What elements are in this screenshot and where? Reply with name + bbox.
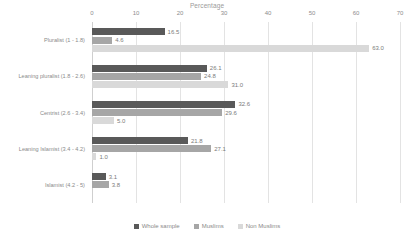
legend-swatch-icon xyxy=(194,224,199,229)
bar-value-label: 16.5 xyxy=(165,29,180,35)
bar[interactable] xyxy=(92,37,112,44)
bar[interactable] xyxy=(92,101,235,108)
bar[interactable] xyxy=(92,109,222,116)
x-tick-20: 20 xyxy=(177,10,184,16)
bar-value-label: 3.8 xyxy=(109,182,120,188)
category-label: Islamist (4.2 - 5) xyxy=(45,182,85,188)
category-label: Leaning pluralist (1.8 - 2.6) xyxy=(18,73,85,79)
legend-label: Whole sample xyxy=(142,223,180,229)
x-tick-40: 40 xyxy=(265,10,272,16)
legend-label: Non Muslims xyxy=(246,223,281,229)
chart-title: Percentage xyxy=(0,2,414,9)
bar-row: 24.8 xyxy=(92,73,400,80)
bar-row: 3.8 xyxy=(92,181,400,188)
bar[interactable] xyxy=(92,173,106,180)
bar-row: 27.1 xyxy=(92,145,400,152)
bar[interactable] xyxy=(92,137,188,144)
legend-swatch-icon xyxy=(134,224,139,229)
bar-row: 5.0 xyxy=(92,117,400,124)
x-tick-30: 30 xyxy=(221,10,228,16)
bar-value-label: 4.6 xyxy=(112,37,123,43)
bar[interactable] xyxy=(92,81,228,88)
bar[interactable] xyxy=(92,73,201,80)
bar-value-label: 21.8 xyxy=(188,138,203,144)
x-tick-10: 10 xyxy=(133,10,140,16)
bar-row: 32.6 xyxy=(92,101,400,108)
legend-item[interactable]: Non Muslims xyxy=(238,223,281,229)
bar-value-label: 24.8 xyxy=(201,73,216,79)
legend-swatch-icon xyxy=(238,224,243,229)
bar-value-label: 31.0 xyxy=(228,82,243,88)
x-tick-70: 70 xyxy=(397,10,404,16)
bar-row: 3.1 xyxy=(92,173,400,180)
x-tick-0: 0 xyxy=(90,10,93,16)
bar[interactable] xyxy=(92,45,369,52)
legend-item[interactable]: Muslims xyxy=(194,223,224,229)
bar[interactable] xyxy=(92,145,211,152)
bar-value-label: 63.0 xyxy=(369,45,384,51)
y-axis-category-labels: Pluralist (1 - 1.8)Leaning pluralist (1.… xyxy=(0,22,89,203)
bar-row: 21.8 xyxy=(92,137,400,144)
category-label: Centrist (2.6 - 3.4) xyxy=(40,110,85,116)
x-axis-tick-labels: 010203040506070 xyxy=(92,10,400,21)
bar-value-label: 26.1 xyxy=(207,65,222,71)
bar-chart: Percentage 010203040506070 16.54.663.026… xyxy=(0,0,414,235)
bar[interactable] xyxy=(92,28,165,35)
bar-row: 31.0 xyxy=(92,81,400,88)
category-label: Pluralist (1 - 1.8) xyxy=(44,37,85,43)
legend-item[interactable]: Whole sample xyxy=(134,223,180,229)
bar-value-label: 32.6 xyxy=(235,101,250,107)
chart-legend: Whole sampleMuslimsNon Muslims xyxy=(0,223,414,229)
bar-value-label: 1.0 xyxy=(96,154,107,160)
x-tick-50: 50 xyxy=(309,10,316,16)
bar[interactable] xyxy=(92,181,109,188)
x-tick-60: 60 xyxy=(353,10,360,16)
bar[interactable] xyxy=(92,65,207,72)
bar-value-label: 3.1 xyxy=(106,174,117,180)
bar-row: 63.0 xyxy=(92,45,400,52)
bar-row xyxy=(92,190,400,197)
category-label: Leaning Islamist (3.4 - 4.2) xyxy=(19,146,85,152)
bar-row: 26.1 xyxy=(92,65,400,72)
gridline-70 xyxy=(400,22,401,203)
plot-area: 16.54.663.026.124.831.032.629.65.021.827… xyxy=(92,22,400,203)
bar-value-label: 27.1 xyxy=(211,146,226,152)
bar-value-label: 29.6 xyxy=(222,110,237,116)
bar-row: 1.0 xyxy=(92,153,400,160)
bar-value-label: 5.0 xyxy=(114,118,125,124)
legend-label: Muslims xyxy=(202,223,224,229)
bar-row: 16.5 xyxy=(92,28,400,35)
bar[interactable] xyxy=(92,117,114,124)
bar-row: 4.6 xyxy=(92,37,400,44)
bar-row: 29.6 xyxy=(92,109,400,116)
